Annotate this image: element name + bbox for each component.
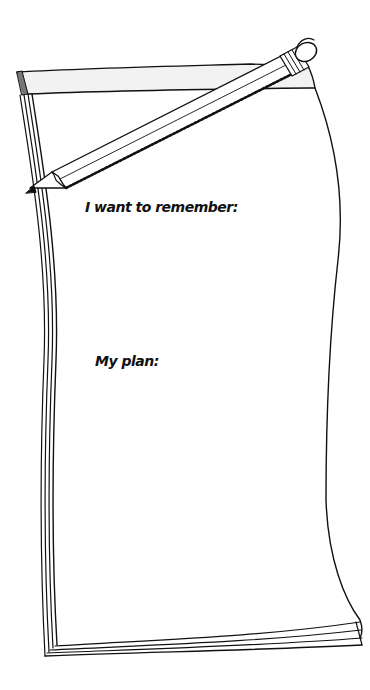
notepad-icon <box>17 64 362 656</box>
remember-prompt-label: I want to remember: <box>85 199 238 215</box>
notepad-illustration <box>0 0 370 690</box>
plan-prompt-label: My plan: <box>95 353 159 369</box>
